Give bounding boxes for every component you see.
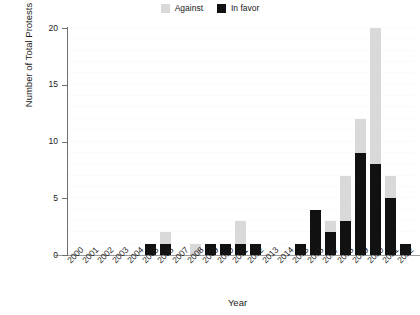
legend-label-against: Against: [175, 4, 203, 13]
gridline: [68, 50, 413, 51]
gridline: [68, 38, 413, 39]
bar-segment-against[interactable]: [385, 176, 396, 199]
plot-area: [68, 28, 413, 255]
gridline: [68, 72, 413, 73]
bar-segment-against[interactable]: [355, 119, 366, 153]
y-tick-label: 5: [18, 194, 58, 203]
y-tick-mark: [62, 198, 68, 199]
legend-swatch-in-favor: [217, 4, 226, 13]
legend-swatch-against: [161, 4, 170, 13]
chart-legend: Against In favor: [0, 4, 420, 13]
x-axis-title: Year: [55, 297, 420, 309]
y-tick-label: 0: [18, 251, 58, 260]
legend-label-in-favor: In favor: [231, 4, 259, 13]
y-tick-mark: [62, 142, 68, 143]
chart-figure: Against In favor Number of Total Protest…: [0, 0, 420, 315]
gridline: [68, 61, 413, 62]
y-tick-label: 15: [18, 80, 58, 89]
y-tick-label: 20: [18, 24, 58, 33]
y-tick-label: 10: [18, 137, 58, 146]
y-tick-mark: [62, 28, 68, 29]
gridline: [68, 84, 413, 85]
legend-entry-in-favor[interactable]: In favor: [217, 4, 259, 13]
gridline: [68, 27, 413, 28]
y-tick-mark: [62, 85, 68, 86]
bar-segment-against[interactable]: [370, 28, 381, 164]
bar-segment-against[interactable]: [340, 176, 351, 221]
gridline: [68, 95, 413, 96]
gridline: [68, 106, 413, 107]
legend-entry-against[interactable]: Against: [161, 4, 203, 13]
